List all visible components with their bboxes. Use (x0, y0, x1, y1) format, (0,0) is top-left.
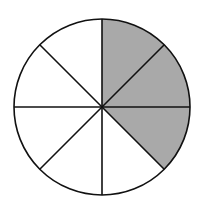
divider-lines (14, 19, 190, 195)
fraction-circle-diagram (0, 0, 198, 212)
